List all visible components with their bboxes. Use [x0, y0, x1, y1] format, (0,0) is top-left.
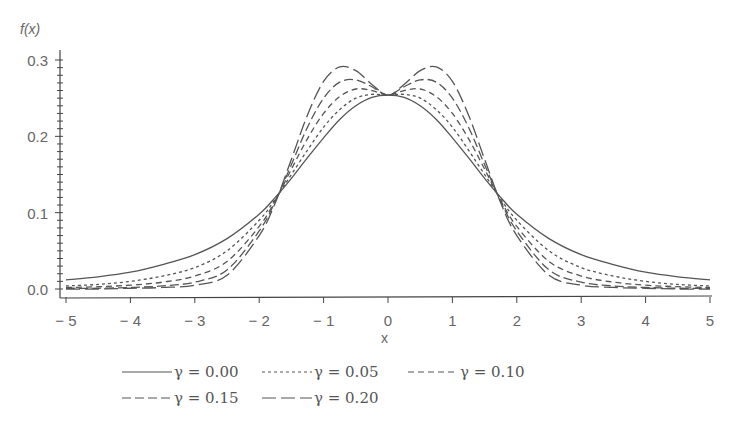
x-tick-label: 2 [513, 312, 521, 329]
curves [66, 66, 710, 289]
legend-label: γ = 0.00 [174, 363, 238, 381]
x-tick-label: 3 [577, 312, 585, 329]
legend-label: γ = 0.15 [174, 389, 238, 407]
y-tick-label: 0.1 [27, 205, 48, 222]
legend-item: γ = 0.15 [122, 389, 238, 407]
curve-0.15 [66, 79, 710, 288]
curve-0.05 [66, 94, 710, 286]
x-tick-label: 5 [706, 312, 714, 329]
curve-0.00 [66, 95, 710, 280]
curve-0.10 [66, 89, 710, 288]
y-tick-label: 0.3 [27, 52, 48, 69]
x-tick-label: 0 [384, 312, 392, 329]
legend-label: γ = 0.20 [314, 389, 378, 407]
x-axis-line [60, 296, 712, 298]
x-tick-label: − 4 [120, 312, 141, 329]
legend-label: γ = 0.05 [314, 363, 378, 381]
y-tick-label: 0.2 [27, 128, 48, 145]
density-chart: f(x) 0.00.10.20.3− 5− 4− 3− 2− 1012345 x… [0, 0, 733, 423]
y-axis-title: f(x) [20, 21, 40, 37]
legend-item: γ = 0.10 [408, 363, 524, 381]
y-tick-label: 0.0 [27, 281, 48, 298]
legend: γ = 0.00γ = 0.05γ = 0.10γ = 0.15γ = 0.20 [122, 363, 524, 407]
curve-0.20 [66, 66, 710, 289]
x-tick-label: − 3 [184, 312, 205, 329]
x-tick-label: − 5 [55, 312, 76, 329]
x-tick-label: − 2 [249, 312, 270, 329]
x-tick-label: − 1 [313, 312, 334, 329]
legend-item: γ = 0.05 [262, 363, 378, 381]
legend-item: γ = 0.20 [262, 389, 378, 407]
legend-label: γ = 0.10 [460, 363, 524, 381]
x-axis-title: x [381, 330, 388, 346]
legend-item: γ = 0.00 [122, 363, 238, 381]
x-tick-label: 1 [448, 312, 456, 329]
x-tick-label: 4 [641, 312, 649, 329]
